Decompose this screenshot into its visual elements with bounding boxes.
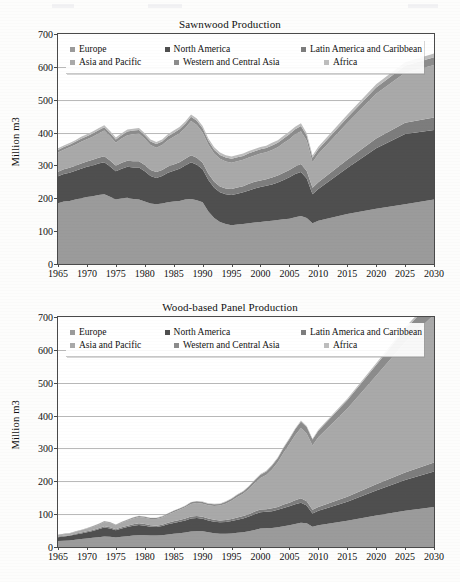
x-tick-mark xyxy=(260,547,261,550)
legend-label: Asia and Pacific xyxy=(79,339,141,352)
x-tick-mark xyxy=(376,264,377,267)
legend-swatch-icon xyxy=(165,47,170,52)
legend-item-north-america[interactable]: North America xyxy=(165,326,301,339)
x-axis-tick-label: 2000 xyxy=(250,268,270,279)
x-tick-mark xyxy=(434,547,435,550)
x-axis-tick-label: 2005 xyxy=(279,551,299,562)
x-axis-tick-label: 1980 xyxy=(135,551,155,562)
x-axis-tick-label: 2005 xyxy=(279,268,299,279)
x-tick-mark xyxy=(203,547,204,550)
legend-row: Asia and PacificWestern and Central Asia… xyxy=(70,339,422,352)
page-header-strip xyxy=(0,0,460,16)
x-axis-tick-label: 2010 xyxy=(308,551,328,562)
y-axis-tick-label: 300 xyxy=(38,160,53,171)
legend-swatch-icon xyxy=(165,330,170,335)
y-axis-tick-label: 200 xyxy=(38,193,53,204)
x-tick-mark xyxy=(318,547,319,550)
chart-title: Sawnwood Production xyxy=(0,16,460,33)
y-axis-title: Million m3 xyxy=(10,117,24,167)
legend-item-europe[interactable]: Europe xyxy=(70,326,165,339)
x-tick-mark xyxy=(174,547,175,550)
x-axis-tick-label: 2000 xyxy=(250,551,270,562)
legend-row: EuropeNorth AmericaLatin America and Car… xyxy=(70,43,422,56)
y-axis-tick-label: 700 xyxy=(38,29,53,40)
legend-item-north-america[interactable]: North America xyxy=(165,43,301,56)
x-tick-mark xyxy=(434,264,435,267)
x-axis-tick-label: 2010 xyxy=(308,268,328,279)
legend-label: Africa xyxy=(333,56,357,69)
chart-legend: EuropeNorth AmericaLatin America and Car… xyxy=(66,323,424,357)
chart-legend: EuropeNorth AmericaLatin America and Car… xyxy=(66,40,424,74)
x-axis-tick-label: 1975 xyxy=(106,551,126,562)
x-axis-tick-label: 1990 xyxy=(193,268,213,279)
y-axis-tick-label: 600 xyxy=(38,61,53,72)
x-axis-tick-label: 2015 xyxy=(337,551,357,562)
x-tick-mark xyxy=(347,547,348,550)
x-axis-tick-label: 2030 xyxy=(424,551,444,562)
plot-area: 0100200300400500600700196519701975198019… xyxy=(57,316,435,548)
legend-label: Western and Central Asia xyxy=(183,339,280,352)
x-tick-mark xyxy=(116,547,117,550)
legend-row: Asia and PacificWestern and Central Asia… xyxy=(70,56,422,69)
legend-swatch-icon xyxy=(324,343,329,348)
legend-item-europe[interactable]: Europe xyxy=(70,43,165,56)
legend-item-asia-and-pacific[interactable]: Asia and Pacific xyxy=(70,339,174,352)
x-tick-mark xyxy=(289,264,290,267)
legend-item-africa[interactable]: Africa xyxy=(324,56,357,69)
legend-swatch-icon xyxy=(301,47,306,52)
x-axis-tick-label: 1970 xyxy=(77,268,97,279)
legend-item-asia-and-pacific[interactable]: Asia and Pacific xyxy=(70,56,174,69)
y-axis-tick-label: 100 xyxy=(38,226,53,237)
y-axis-tick-label: 100 xyxy=(38,509,53,520)
x-axis-tick-label: 2025 xyxy=(395,551,415,562)
legend-swatch-icon xyxy=(70,60,75,65)
plot-area: 0100200300400500600700196519701975198019… xyxy=(57,33,435,265)
x-axis-tick-label: 1970 xyxy=(77,551,97,562)
x-axis-tick-label: 2020 xyxy=(366,268,386,279)
x-axis-tick-label: 2025 xyxy=(395,268,415,279)
legend-item-western-and-central-asia[interactable]: Western and Central Asia xyxy=(174,56,324,69)
y-axis-title: Million m3 xyxy=(10,400,24,450)
legend-label: North America xyxy=(174,326,231,339)
x-tick-mark xyxy=(260,264,261,267)
chart-title: Wood-based Panel Production xyxy=(0,299,460,316)
legend-label: Western and Central Asia xyxy=(183,56,280,69)
x-axis-tick-label: 2020 xyxy=(366,551,386,562)
legend-label: Asia and Pacific xyxy=(79,56,141,69)
x-axis-tick-label: 1990 xyxy=(193,551,213,562)
y-axis-tick-label: 200 xyxy=(38,476,53,487)
x-tick-mark xyxy=(58,264,59,267)
x-tick-mark xyxy=(116,264,117,267)
x-axis-tick-label: 1980 xyxy=(135,268,155,279)
y-axis-tick-label: 700 xyxy=(38,312,53,323)
scan-smudge xyxy=(148,4,182,8)
x-axis-tick-label: 1965 xyxy=(48,551,68,562)
legend-swatch-icon xyxy=(70,47,75,52)
legend-item-latin-america-and-caribbean[interactable]: Latin America and Caribbean xyxy=(301,326,422,339)
y-axis-tick-label: 400 xyxy=(38,410,53,421)
legend-swatch-icon xyxy=(301,330,306,335)
legend-swatch-icon xyxy=(174,343,179,348)
legend-label: Africa xyxy=(333,339,357,352)
legend-swatch-icon xyxy=(174,60,179,65)
x-tick-mark xyxy=(87,547,88,550)
legend-label: Europe xyxy=(79,326,106,339)
x-axis-tick-label: 2030 xyxy=(424,268,444,279)
x-tick-mark xyxy=(289,547,290,550)
legend-label: Latin America and Caribbean xyxy=(310,326,422,339)
x-tick-mark xyxy=(145,547,146,550)
x-tick-mark xyxy=(405,547,406,550)
legend-item-western-and-central-asia[interactable]: Western and Central Asia xyxy=(174,339,324,352)
legend-label: Europe xyxy=(79,43,106,56)
x-tick-mark xyxy=(318,264,319,267)
legend-swatch-icon xyxy=(70,343,75,348)
y-axis-tick-label: 400 xyxy=(38,127,53,138)
legend-item-africa[interactable]: Africa xyxy=(324,339,357,352)
y-axis-tick-label: 300 xyxy=(38,443,53,454)
legend-item-latin-america-and-caribbean[interactable]: Latin America and Caribbean xyxy=(301,43,422,56)
legend-label: Latin America and Caribbean xyxy=(310,43,422,56)
y-axis-tick-label: 600 xyxy=(38,344,53,355)
legend-swatch-icon xyxy=(70,330,75,335)
x-tick-mark xyxy=(203,264,204,267)
legend-row: EuropeNorth AmericaLatin America and Car… xyxy=(70,326,422,339)
